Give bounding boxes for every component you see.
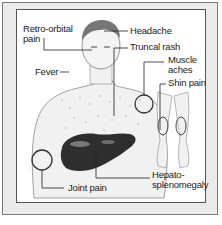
- label-joint-pain: Joint pain: [68, 183, 107, 193]
- label-retro-orbital-pain: pain: [23, 34, 40, 44]
- label-fever: Fever: [35, 67, 58, 77]
- label-shin-pain: Shin pain: [168, 78, 206, 88]
- label-truncal-rash: Truncal rash: [130, 42, 180, 52]
- label-aches: aches: [168, 65, 192, 75]
- label-splenomegaly: splenomegaly: [152, 180, 208, 190]
- label-headache: Headache: [130, 26, 172, 36]
